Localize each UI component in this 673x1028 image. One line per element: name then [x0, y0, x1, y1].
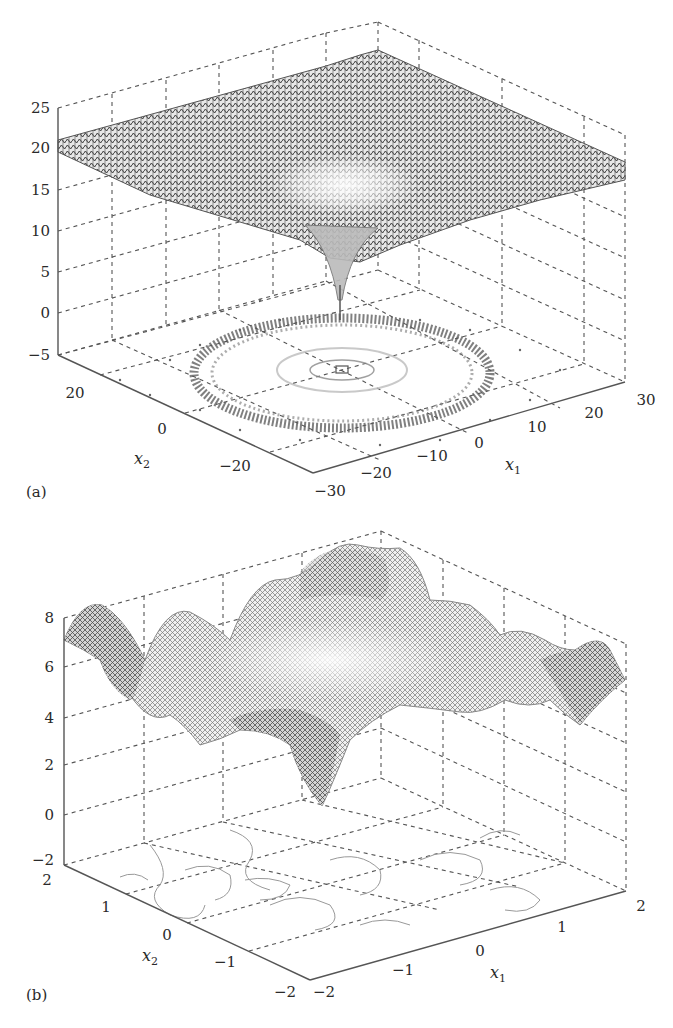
x1-axis-label-b: x1	[490, 963, 506, 985]
svg-text:2: 2	[636, 897, 646, 915]
surface-mesh-b	[64, 544, 625, 806]
panel-label-a: (a)	[26, 483, 47, 501]
x1-axis-b	[310, 891, 626, 980]
svg-text:−2: −2	[274, 983, 296, 1001]
floor-contours-b	[120, 830, 540, 930]
z-ticks-a: 25 20 15 10 5 0 −5	[28, 99, 50, 364]
svg-text:−1: −1	[214, 953, 236, 971]
svg-text:−20: −20	[219, 457, 251, 475]
x1-axis-label-a: x1	[505, 455, 521, 477]
surface-plot-b: 8 6 4 2 0 −2 2 1 0 −1 −2 x2 −2 −1 0 1 2 …	[0, 515, 673, 1028]
svg-text:6: 6	[44, 658, 54, 676]
x1-ticks-a: −30 −20 −10 0 10 20 30	[314, 391, 655, 500]
svg-text:0: 0	[44, 806, 54, 824]
surface-mesh-a	[58, 50, 625, 320]
svg-text:0: 0	[474, 434, 484, 452]
figure-a: 25 20 15 10 5 0 −5 20 0 −20 x2 −30 −20 −…	[0, 0, 673, 515]
x2-ticks-b: 2 1 0 −1 −2	[42, 871, 296, 1001]
svg-text:−30: −30	[314, 482, 346, 500]
svg-text:20: 20	[31, 139, 50, 157]
svg-text:0: 0	[475, 942, 485, 960]
svg-text:−2: −2	[313, 983, 335, 1001]
svg-text:0: 0	[40, 304, 50, 322]
svg-text:1: 1	[557, 918, 567, 936]
svg-text:−5: −5	[28, 346, 50, 364]
x2-ticks-a: 20 0 −20	[65, 384, 250, 475]
svg-text:−1: −1	[392, 961, 414, 979]
x2-axis-label-a: x2	[134, 449, 150, 471]
svg-text:30: 30	[636, 391, 655, 409]
figure-b: 8 6 4 2 0 −2 2 1 0 −1 −2 x2 −2 −1 0 1 2 …	[0, 515, 673, 1028]
svg-text:25: 25	[31, 99, 50, 117]
svg-text:−20: −20	[360, 464, 392, 482]
svg-text:10: 10	[527, 418, 546, 436]
svg-text:5: 5	[40, 263, 50, 281]
surface-plot-a: 25 20 15 10 5 0 −5 20 0 −20 x2 −30 −20 −…	[0, 0, 673, 515]
svg-text:8: 8	[44, 609, 54, 627]
svg-text:15: 15	[31, 181, 50, 199]
x1-ticks-b: −2 −1 0 1 2	[313, 897, 646, 1001]
svg-text:0: 0	[162, 926, 172, 944]
svg-text:1: 1	[101, 898, 111, 916]
x2-axis-b	[64, 865, 310, 980]
svg-text:4: 4	[44, 709, 54, 727]
panel-label-b: (b)	[26, 986, 47, 1004]
svg-text:20: 20	[584, 404, 603, 422]
svg-text:−10: −10	[416, 447, 448, 465]
z-ticks-b: 8 6 4 2 0 −2	[32, 609, 54, 869]
svg-text:10: 10	[31, 222, 50, 240]
svg-text:2: 2	[44, 756, 54, 774]
svg-text:0: 0	[157, 420, 167, 438]
x2-axis-label-b: x2	[142, 946, 158, 968]
svg-text:20: 20	[65, 384, 84, 402]
svg-text:−2: −2	[32, 851, 54, 869]
svg-text:2: 2	[42, 871, 52, 889]
